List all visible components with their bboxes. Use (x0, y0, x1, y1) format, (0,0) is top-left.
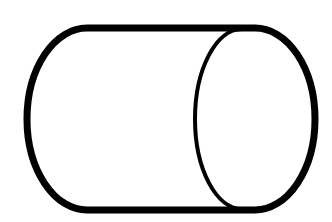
cylinder-body-outline (27, 28, 315, 210)
cylinder-diagram (0, 0, 332, 222)
